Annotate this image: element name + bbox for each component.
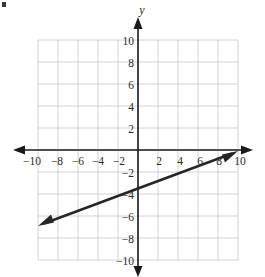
y-tick-label: 2 <box>128 123 134 135</box>
x-tick-label: 6 <box>197 155 203 167</box>
y-tick-label: −2 <box>122 167 134 179</box>
y-axis-bottom-arrowhead <box>134 266 143 277</box>
y-axis-top-arrowhead <box>134 17 143 29</box>
x-tick-label: −8 <box>51 155 63 167</box>
x-axis-right-arrowhead <box>241 146 253 155</box>
x-tick-label: −2 <box>113 155 125 167</box>
x-tick-label: −10 <box>23 155 41 167</box>
coordinate-plane-figure: −10 −8 −6 −4 −2 2 4 6 8 10 10 8 6 4 2 −2… <box>0 0 265 277</box>
y-tick-label: 6 <box>128 79 134 91</box>
y-axis-title: y <box>138 3 145 17</box>
y-tick-label: −8 <box>122 233 134 245</box>
x-tick-label: 4 <box>177 155 183 167</box>
x-axis-left-arrowhead <box>13 146 25 155</box>
x-tick-label: −6 <box>72 155 84 167</box>
x-tick-label: 10 <box>234 155 246 167</box>
y-tick-label: −4 <box>122 189 134 201</box>
y-tick-label: −6 <box>122 211 134 223</box>
y-tick-label: 8 <box>128 57 134 69</box>
x-tick-label: −4 <box>92 155 104 167</box>
y-tick-labels: 10 8 6 4 2 −2 −4 −6 −8 −10 <box>116 35 134 267</box>
chart-screenshot: −10 −8 −6 −4 −2 2 4 6 8 10 10 8 6 4 2 −2… <box>0 0 265 277</box>
x-tick-label: 8 <box>216 155 222 167</box>
x-tick-label: 2 <box>156 155 162 167</box>
y-tick-label: 10 <box>123 35 135 47</box>
x-axis <box>13 146 253 155</box>
y-tick-label: 4 <box>128 101 134 113</box>
y-tick-label: −10 <box>116 255 134 267</box>
